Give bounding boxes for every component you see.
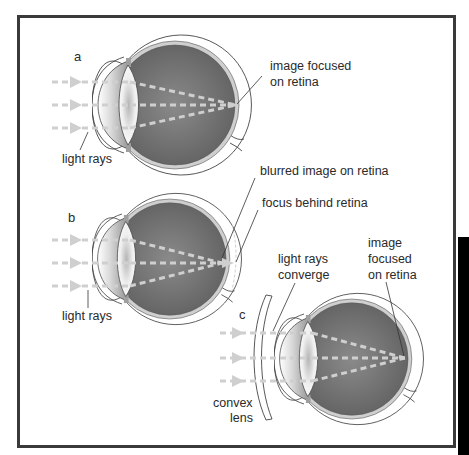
label-c-focus-line3: on retina bbox=[368, 268, 417, 282]
label-a-focus-line2: on retina bbox=[270, 75, 319, 89]
label-c-lens-line2: lens bbox=[230, 411, 253, 425]
eye-focus-diagram: a light rays image focused on retina b bbox=[0, 0, 469, 455]
panel-b-letter: b bbox=[68, 210, 75, 225]
panel-c-letter: c bbox=[239, 307, 246, 322]
label-c-focus-line1: image bbox=[368, 236, 402, 250]
label-c-lens-line1: convex bbox=[213, 396, 253, 410]
label-b-light-rays: light rays bbox=[62, 309, 112, 323]
label-c-focus-line2: focused bbox=[368, 252, 412, 266]
label-c-converge-line2: converge bbox=[278, 268, 329, 282]
label-c-converge-line1: light rays bbox=[278, 252, 328, 266]
label-a-light-rays: light rays bbox=[62, 152, 112, 166]
panel-a-letter: a bbox=[74, 49, 82, 64]
label-b-blurred-image: blurred image on retina bbox=[260, 164, 389, 178]
side-black-block bbox=[458, 237, 469, 455]
label-a-focus-line1: image focused bbox=[270, 59, 351, 73]
label-b-focus-behind: focus behind retina bbox=[262, 196, 368, 210]
